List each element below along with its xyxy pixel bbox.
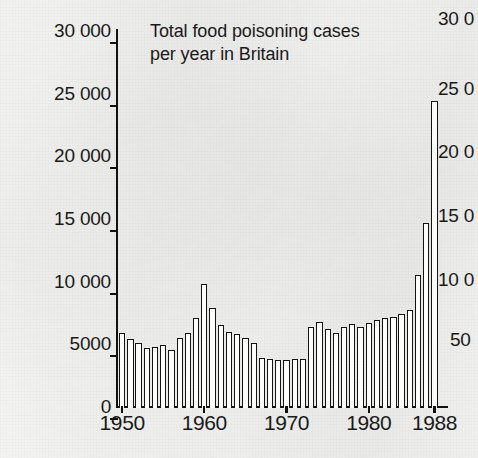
bar [382, 318, 388, 408]
adjacent-chart-y-label: 50 [450, 330, 471, 349]
bar [193, 318, 199, 408]
bar [201, 284, 207, 408]
bar [119, 333, 125, 408]
y-axis-tick-label: 25 000 [54, 83, 111, 102]
bar [374, 320, 380, 408]
x-axis-tick-label: 1980 [346, 412, 391, 434]
plot-area: Total food poisoning cases per year in B… [116, 16, 456, 458]
y-axis-tick [110, 355, 118, 357]
x-axis-tick [285, 406, 287, 413]
bar [218, 325, 224, 408]
y-axis-tick [110, 167, 118, 169]
bar [423, 223, 429, 408]
x-axis-tick [368, 406, 370, 413]
x-axis-tick-label: 1960 [182, 412, 227, 434]
y-axis-tick-label: 10 000 [54, 271, 111, 290]
bar [357, 327, 363, 408]
bar [242, 338, 248, 408]
bar [283, 360, 289, 408]
bar [127, 339, 133, 408]
food-poisoning-bar-chart: 0500010 00015 00020 00025 00030 000 Tota… [40, 16, 470, 458]
bar-series [119, 16, 449, 408]
bar [209, 308, 215, 408]
bar [275, 360, 281, 408]
bar [168, 350, 174, 408]
bar [185, 333, 191, 408]
y-axis-tick-label: 15 000 [54, 209, 111, 228]
bar [251, 343, 257, 408]
bar [341, 327, 347, 408]
bar [177, 338, 183, 408]
bar [325, 329, 331, 408]
bar [144, 348, 150, 408]
y-axis-tick-label: 5000 [70, 334, 111, 353]
y-axis-tick [110, 42, 118, 44]
bar [333, 333, 339, 408]
adjacent-chart-y-label: 25 0 [438, 79, 474, 98]
x-axis-tick-label: 1970 [264, 412, 309, 434]
x-axis-tick [203, 406, 205, 413]
bar [390, 317, 396, 408]
y-axis-tick-label: 20 000 [54, 146, 111, 165]
adjacent-chart-clipped: 30 025 020 015 010 050 [430, 0, 478, 458]
y-axis-tick-label: 30 000 [54, 21, 111, 40]
y-axis-tick [110, 230, 118, 232]
bar [152, 347, 158, 408]
bar [415, 275, 421, 408]
adjacent-chart-y-label: 30 0 [438, 9, 474, 28]
bar [308, 327, 314, 408]
bar [366, 323, 372, 408]
bar [267, 359, 273, 408]
bar [349, 324, 355, 408]
bar [407, 310, 413, 408]
bar [398, 314, 404, 408]
bar [300, 359, 306, 408]
x-axis-label-group: 19501960197019801988 [116, 412, 476, 442]
adjacent-chart-y-label: 20 0 [438, 142, 474, 161]
bar [259, 358, 265, 408]
y-axis-label-group: 0500010 00015 00020 00025 00030 000 [40, 16, 111, 458]
bar [226, 332, 232, 408]
bar [234, 334, 240, 408]
x-axis-tick [121, 406, 123, 413]
x-axis-tick-label: 1950 [100, 412, 145, 434]
adjacent-chart-y-label: 10 0 [438, 270, 474, 289]
page-stage: 0500010 00015 00020 00025 00030 000 Tota… [0, 0, 478, 458]
y-axis-tick [110, 105, 118, 107]
adjacent-chart-y-label: 15 0 [438, 206, 474, 225]
bar [135, 343, 141, 408]
bar [316, 322, 322, 408]
bar [160, 345, 166, 408]
y-axis-tick [110, 293, 118, 295]
bar [292, 359, 298, 408]
